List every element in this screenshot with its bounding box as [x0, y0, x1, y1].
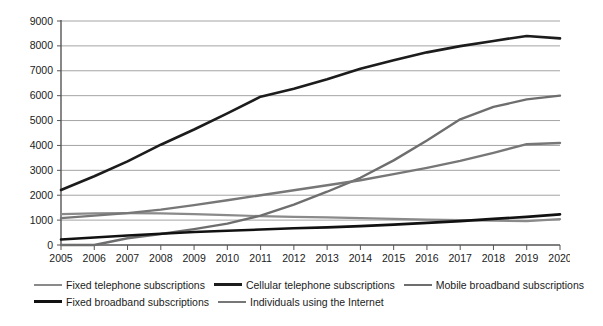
- series-line: [61, 36, 560, 190]
- y-tick-label: 5000: [30, 114, 54, 126]
- x-tick-label: 2005: [49, 252, 73, 264]
- legend-swatch-icon: [34, 284, 62, 286]
- x-tick-label: 2014: [349, 252, 373, 264]
- legend-row: Fixed broadband subscriptionsIndividuals…: [34, 293, 564, 310]
- y-tick-label: 4000: [30, 139, 54, 151]
- y-tick-labels: 0100020003000400050006000700080009000: [30, 15, 61, 251]
- legend-item[interactable]: Individuals using the Internet: [218, 296, 384, 308]
- line-chart-svg: 0100020003000400050006000700080009000 20…: [0, 0, 570, 268]
- x-tick-label: 2019: [515, 252, 539, 264]
- x-tick-label: 2006: [83, 252, 107, 264]
- y-tick-label: 6000: [30, 89, 54, 101]
- y-tick-label: 7000: [30, 64, 54, 76]
- legend-row: Fixed telephone subscriptionsCellular te…: [34, 276, 564, 293]
- plot-area: 0100020003000400050006000700080009000 20…: [0, 0, 570, 268]
- data-series-group: [61, 36, 560, 245]
- x-tick-label: 2018: [482, 252, 506, 264]
- legend-item[interactable]: Fixed telephone subscriptions: [34, 279, 205, 291]
- legend-label: Fixed telephone subscriptions: [66, 279, 205, 291]
- legend-swatch-icon: [404, 284, 432, 286]
- legend-item[interactable]: Mobile broadband subscriptions: [404, 279, 584, 291]
- legend-swatch-icon: [214, 283, 242, 286]
- x-tick-label: 2008: [149, 252, 173, 264]
- y-tick-label: 8000: [30, 39, 54, 51]
- chart-figure: 0100020003000400050006000700080009000 20…: [0, 0, 603, 326]
- legend-label: Cellular telephone subscriptions: [246, 279, 395, 291]
- x-tick-label: 2011: [249, 252, 272, 264]
- legend-label: Fixed broadband subscriptions: [66, 296, 209, 308]
- x-tick-label: 2016: [415, 252, 439, 264]
- legend-label: Individuals using the Internet: [250, 296, 384, 308]
- x-tick-label: 2009: [182, 252, 206, 264]
- series-line: [61, 143, 560, 218]
- x-axis-ticks: [61, 245, 560, 250]
- y-tick-label: 9000: [30, 15, 54, 27]
- legend-swatch-icon: [34, 300, 62, 303]
- legend-item[interactable]: Cellular telephone subscriptions: [214, 279, 395, 291]
- y-tick-label: 2000: [30, 189, 54, 201]
- x-tick-label: 2015: [382, 252, 406, 264]
- x-tick-labels: 2005200620072008200920102011201220132014…: [49, 252, 570, 264]
- y-tick-label: 3000: [30, 164, 54, 176]
- legend-label: Mobile broadband subscriptions: [436, 279, 584, 291]
- legend-item[interactable]: Fixed broadband subscriptions: [34, 296, 209, 308]
- x-tick-label: 2012: [282, 252, 306, 264]
- y-tick-label: 1000: [30, 214, 54, 226]
- x-tick-label: 2007: [116, 252, 140, 264]
- x-tick-label: 2013: [315, 252, 339, 264]
- y-tick-label: 0: [47, 239, 53, 251]
- legend-swatch-icon: [218, 301, 246, 303]
- x-tick-label: 2017: [449, 252, 473, 264]
- x-tick-label: 2020: [548, 252, 570, 264]
- chart-legend: Fixed telephone subscriptionsCellular te…: [34, 276, 564, 310]
- x-tick-label: 2010: [216, 252, 240, 264]
